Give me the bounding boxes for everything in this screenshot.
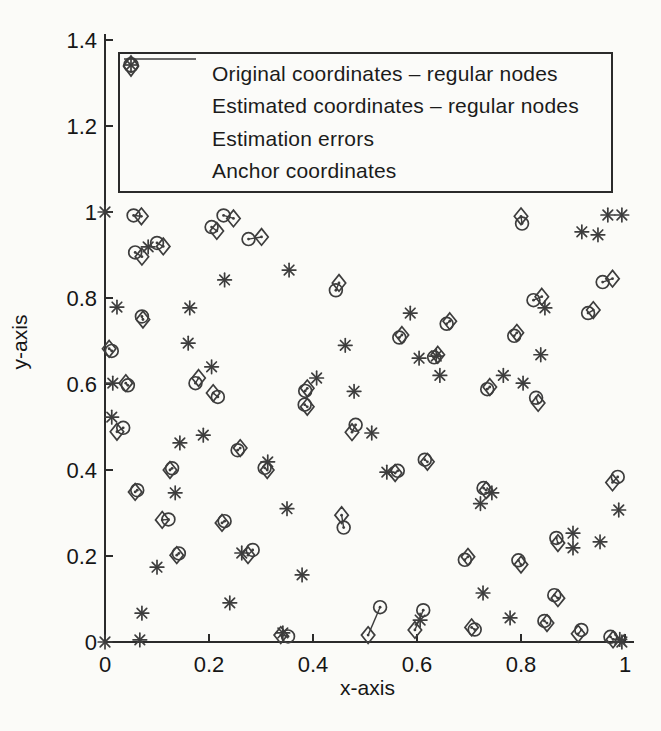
anchor-marker xyxy=(566,526,580,540)
anchor-marker xyxy=(105,410,119,424)
anchor-marker xyxy=(516,376,530,390)
estimated-node-center-dot xyxy=(141,315,144,318)
estimated-node-center-dot xyxy=(134,251,137,254)
original-node-center-dot xyxy=(520,215,523,218)
anchor-marker xyxy=(433,369,447,383)
anchor-marker xyxy=(196,428,210,442)
anchor-marker xyxy=(347,385,361,399)
original-node-center-dot xyxy=(215,230,218,233)
y-tick-label: 0.6 xyxy=(66,372,97,397)
legend-entry-errors: Estimation errors xyxy=(120,123,611,155)
original-node-center-dot xyxy=(540,295,543,298)
anchor-marker xyxy=(615,208,629,222)
y-tick-label: 0.8 xyxy=(66,286,97,311)
original-node-center-dot xyxy=(351,431,354,434)
original-node-center-dot xyxy=(515,331,518,334)
anchor-marker xyxy=(261,455,275,469)
legend: Original coordinates – regular nodes Est… xyxy=(118,52,613,193)
anchor-marker xyxy=(173,436,187,450)
original-node-center-dot xyxy=(488,386,491,389)
anchor-marker xyxy=(276,626,290,640)
original-node-center-dot xyxy=(232,217,235,220)
estimated-node-center-dot xyxy=(532,299,535,302)
original-node-center-dot xyxy=(367,634,370,637)
original-node-center-dot xyxy=(414,629,417,632)
estimation-error-line xyxy=(368,607,380,635)
anchor-marker xyxy=(474,497,488,511)
original-node-center-dot xyxy=(338,282,341,285)
anchor-marker xyxy=(205,360,219,374)
y-axis-label: y-axis xyxy=(8,262,32,422)
original-node-center-dot xyxy=(116,430,119,433)
original-node-center-dot xyxy=(175,554,178,557)
anchor-marker xyxy=(150,560,164,574)
original-node-center-dot xyxy=(546,622,549,625)
original-node-center-dot xyxy=(221,521,224,524)
anchor-marker xyxy=(295,568,309,582)
original-node-center-dot xyxy=(467,555,470,558)
anchor-marker xyxy=(429,349,443,363)
estimated-node-center-dot xyxy=(601,281,604,284)
original-node-center-dot xyxy=(306,387,309,390)
original-node-center-dot xyxy=(212,392,215,395)
anchor-marker xyxy=(503,611,517,625)
estimated-node-center-dot xyxy=(422,609,425,612)
x-tick-label: 0 xyxy=(99,652,111,677)
anchor-marker xyxy=(338,339,352,353)
original-node-center-dot xyxy=(611,481,614,484)
original-node-center-dot xyxy=(169,469,172,472)
estimated-node-center-dot xyxy=(126,384,129,387)
original-node-center-dot xyxy=(134,491,137,494)
anchor-marker xyxy=(601,208,615,222)
original-node-center-dot xyxy=(592,309,595,312)
original-node-center-dot xyxy=(401,334,404,337)
original-node-center-dot xyxy=(140,215,143,218)
legend-entry-anchors: Anchor coordinates xyxy=(120,155,611,187)
original-node-center-dot xyxy=(577,632,580,635)
anchor-marker xyxy=(403,306,417,320)
original-node-center-dot xyxy=(124,382,127,385)
x-axis-label: x-axis xyxy=(0,676,661,700)
x-tick-label: 0.2 xyxy=(194,652,225,677)
legend-label: Anchor coordinates xyxy=(212,159,397,183)
anchor-marker xyxy=(218,273,232,287)
y-tick-label: 1.2 xyxy=(66,114,97,139)
anchor-marker xyxy=(110,300,124,314)
y-tick-label: 0.2 xyxy=(66,544,97,569)
anchor-marker xyxy=(591,228,605,242)
anchor-marker xyxy=(615,635,629,649)
scatter-plot-figure: 00.20.40.60.8100.20.40.60.811.21.4 Origi… xyxy=(0,0,661,731)
original-node-center-dot xyxy=(470,626,473,629)
anchor-marker xyxy=(223,596,237,610)
estimated-node-center-dot xyxy=(342,526,345,529)
anchor-marker xyxy=(133,633,147,647)
legend-label: Estimated coordinates – regular nodes xyxy=(212,94,579,118)
x-tick-label: 0.6 xyxy=(402,652,433,677)
original-node-center-dot xyxy=(197,377,200,380)
anchor-marker xyxy=(282,263,296,277)
original-node-center-dot xyxy=(537,402,540,405)
original-node-center-dot xyxy=(260,236,263,239)
anchor-marker xyxy=(534,348,548,362)
anchor-marker xyxy=(566,541,580,555)
original-node-center-dot xyxy=(108,347,111,350)
original-node-center-dot xyxy=(239,447,242,450)
anchor-marker xyxy=(280,502,294,516)
estimated-node-center-dot xyxy=(222,214,225,217)
legend-label: Estimation errors xyxy=(212,127,374,151)
anchor-marker xyxy=(235,546,249,560)
anchor-marker xyxy=(310,371,324,385)
anchor-marker xyxy=(412,351,426,365)
anchor-marker xyxy=(413,613,427,627)
original-node-center-dot xyxy=(162,245,165,248)
anchor-marker xyxy=(98,635,112,649)
y-tick-label: 1 xyxy=(85,200,97,225)
original-node-center-dot xyxy=(557,542,560,545)
anchor-marker xyxy=(612,503,626,517)
original-node-center-dot xyxy=(611,277,614,280)
anchor-marker xyxy=(575,225,589,239)
anchor-marker xyxy=(485,486,499,500)
x-tick-label: 1 xyxy=(619,652,631,677)
anchor-marker xyxy=(476,586,490,600)
anchor-marker xyxy=(538,301,552,315)
